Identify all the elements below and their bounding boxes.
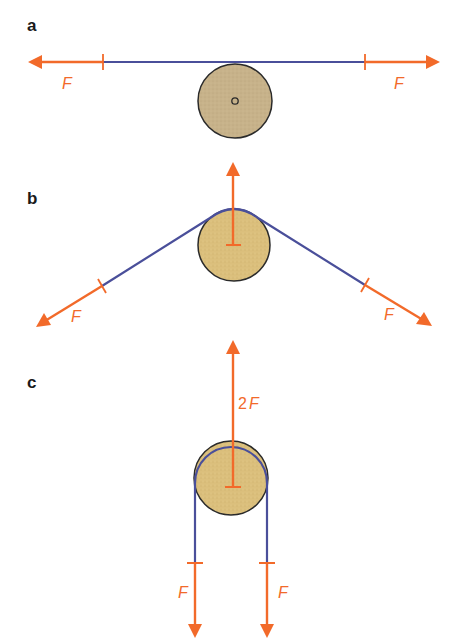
force-label-left-c: F — [178, 584, 189, 601]
panel-label-a: a — [27, 16, 37, 35]
force-arrow-down-right-c — [259, 563, 275, 638]
force-arrow-down-right-b — [361, 278, 432, 326]
panel-c: c 2F F F — [27, 340, 289, 638]
pulley-c — [194, 441, 268, 515]
force-label-up-c: 2F — [238, 395, 260, 412]
panel-label-b: b — [27, 189, 37, 208]
force-label-right-b: F — [384, 306, 395, 323]
force-label-right-c: F — [278, 584, 289, 601]
panel-b: b F F — [27, 162, 432, 327]
force-arrow-down-left-c — [187, 563, 203, 638]
force-label-left-a: F — [62, 75, 73, 92]
panel-a: a F F — [27, 16, 440, 138]
panel-label-c: c — [27, 373, 36, 392]
force-arrow-right-a — [365, 54, 440, 70]
pulley-a — [198, 64, 272, 138]
force-label-right-a: F — [394, 75, 405, 92]
force-label-left-b: F — [71, 308, 82, 325]
pulley-force-diagram: a F F b F — [0, 0, 456, 644]
force-arrow-left-a — [28, 54, 103, 70]
